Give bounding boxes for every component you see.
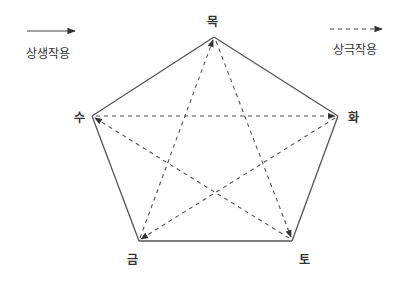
generating-cycle [92,37,338,241]
overcoming-cycle [95,40,335,239]
node-wood: 목 [207,12,218,29]
node-fire: 화 [348,108,359,125]
node-earth: 토 [299,250,310,267]
legend-generating-label: 상생작용 [26,44,70,61]
legend-overcoming-label: 상극작용 [333,40,377,57]
node-metal: 금 [127,250,138,267]
node-water: 수 [74,108,85,125]
